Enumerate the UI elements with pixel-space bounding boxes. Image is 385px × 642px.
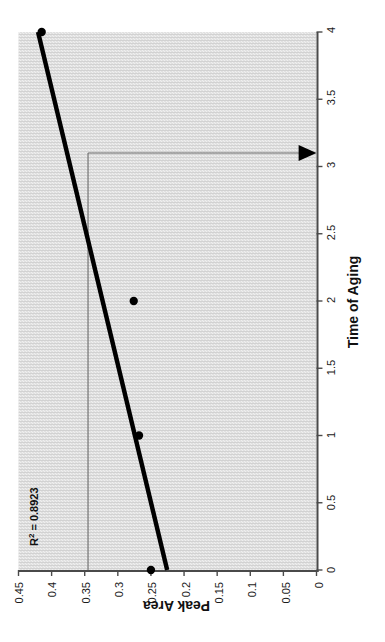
x-tick-label: 0.5 <box>324 495 336 510</box>
y-tick-label: 0.3 <box>112 582 124 597</box>
x-tick-label: 4 <box>324 27 336 33</box>
plot-svg <box>18 32 316 570</box>
x-tick-label: 3.5 <box>324 90 336 105</box>
y-tick-label: 0.35 <box>79 582 91 603</box>
r-squared-symbol: R <box>28 538 40 546</box>
trendline <box>38 32 167 570</box>
x-tick-label: 3 <box>324 162 336 168</box>
r-squared-annotation: R2 = 0.8923 <box>26 487 40 546</box>
x-tick-label: 0 <box>324 567 336 573</box>
plot-area: 00.511.522.533.54 <box>18 32 318 572</box>
data-point <box>129 297 137 305</box>
y-tick-label: 0.1 <box>245 582 257 597</box>
reference-arrow-icon <box>298 145 316 161</box>
y-tick-label: 0.45 <box>12 582 24 603</box>
x-axis-title: Time of Aging <box>344 32 360 572</box>
x-axis-tick-labels: 00.511.522.533.54 <box>318 32 342 570</box>
r-squared-exponent: 2 <box>26 534 35 538</box>
y-tick-label: 0.05 <box>279 582 291 603</box>
x-tick-label: 1 <box>324 432 336 438</box>
y-tick-label: 0.2 <box>179 582 191 597</box>
y-axis-title: Peak Area <box>96 598 256 614</box>
rotated-figure-container: 00.050.10.150.20.250.30.350.40.45 00.511… <box>0 0 385 642</box>
r-squared-value: = 0.8923 <box>28 487 40 533</box>
y-tick-label: 0.4 <box>45 582 57 597</box>
x-tick-label: 2 <box>324 297 336 303</box>
x-tick-label: 2.5 <box>324 225 336 240</box>
data-point <box>146 566 154 574</box>
y-tick-label: 0 <box>312 582 324 588</box>
x-tick-label: 1.5 <box>324 360 336 375</box>
chart-figure: 00.050.10.150.20.250.30.350.40.45 00.511… <box>0 0 385 642</box>
